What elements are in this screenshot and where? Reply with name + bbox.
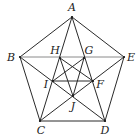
label-C: C [37, 124, 46, 137]
segment-HJ [60, 58, 73, 96]
segment-AB [20, 17, 72, 57]
label-D: D [100, 124, 110, 137]
segment-AC [40, 17, 72, 121]
label-H: H [49, 44, 60, 57]
label-B: B [6, 51, 15, 64]
vertex-I [52, 80, 54, 82]
vertex-E [123, 56, 125, 58]
vertex-D [104, 120, 106, 122]
vertex-B [19, 56, 21, 58]
vertex-J [72, 95, 74, 97]
vertex-G [83, 57, 85, 59]
segment-BC [20, 57, 40, 121]
vertex-C [39, 120, 41, 122]
vertex-H [59, 57, 61, 59]
label-A: A [67, 1, 76, 14]
segment-HF [60, 58, 93, 81]
segment-GI [53, 58, 84, 81]
segment-EA [72, 17, 124, 57]
vertex-F [92, 80, 94, 82]
vertex-A [71, 16, 73, 18]
segment-AD [72, 17, 105, 121]
label-E: E [126, 51, 135, 64]
label-F: F [95, 78, 104, 91]
segment-GJ [73, 58, 84, 96]
label-I: I [43, 78, 49, 91]
label-G: G [85, 44, 94, 57]
pentagon-pentagram-diagram: A B C D E F G H I J [0, 0, 138, 138]
label-J: J [69, 100, 76, 113]
segment-DE [105, 57, 124, 121]
